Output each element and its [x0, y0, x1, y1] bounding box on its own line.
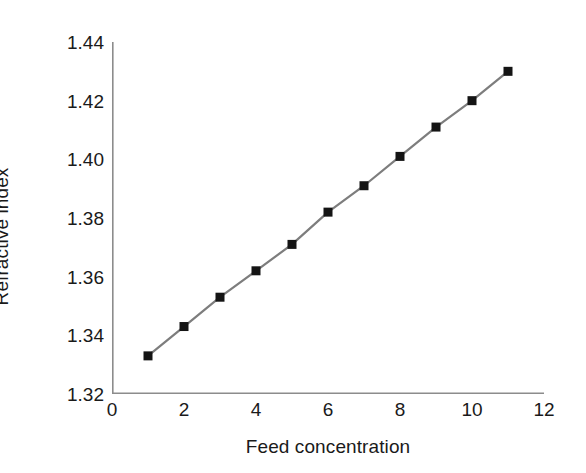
x-tick-label: 6 — [308, 400, 348, 419]
y-tick-label: 1.36 — [42, 267, 104, 286]
plot-svg — [112, 42, 544, 394]
data-point — [432, 123, 441, 132]
chart-figure: Refractive index 1.321.341.361.381.401.4… — [0, 0, 586, 473]
y-tick-label: 1.34 — [42, 326, 104, 345]
y-tick-label: 1.38 — [42, 209, 104, 228]
plot-area — [112, 42, 544, 394]
x-tick-label: 2 — [164, 400, 204, 419]
y-tick-label: 1.40 — [42, 150, 104, 169]
data-point — [360, 181, 369, 190]
x-tick-label: 10 — [452, 400, 492, 419]
x-tick-label: 4 — [236, 400, 276, 419]
data-point — [396, 152, 405, 161]
data-point — [216, 293, 225, 302]
data-point — [180, 322, 189, 331]
data-point — [288, 240, 297, 249]
y-tick-label: 1.44 — [42, 33, 104, 52]
y-tick-label: 1.42 — [42, 91, 104, 110]
x-tick-label: 0 — [92, 400, 132, 419]
x-tick-label: 12 — [524, 400, 564, 419]
data-point — [252, 266, 261, 275]
x-axis-label: Feed concentration — [112, 436, 544, 458]
x-tick-label: 8 — [380, 400, 420, 419]
x-axis-tick-labels: 024681012 — [0, 400, 586, 430]
data-point — [504, 67, 513, 76]
x-axis-label-text: Feed concentration — [246, 436, 410, 457]
data-point — [468, 96, 477, 105]
data-point — [324, 208, 333, 217]
data-point — [144, 351, 153, 360]
